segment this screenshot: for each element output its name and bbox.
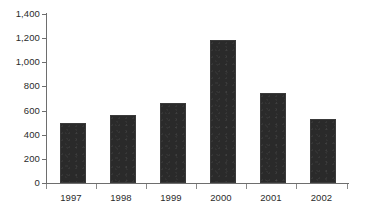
- x-tick-label-1997: 1997: [46, 192, 96, 203]
- x-tick-label-1999: 1999: [146, 192, 196, 203]
- bar-2000: [210, 40, 236, 183]
- y-tick-label: 1,200: [0, 33, 40, 43]
- x-tick-mark: [296, 184, 297, 189]
- bar-2001: [260, 93, 286, 183]
- y-axis-labels: 1,400 1,200 1,000 800 600 400 200 0: [0, 0, 40, 214]
- bar-1999: [160, 103, 186, 183]
- x-tick-label-2002: 2002: [296, 192, 347, 203]
- x-tick-mark: [347, 184, 348, 189]
- bar-1998: [110, 115, 136, 183]
- y-tick-label: 0: [0, 178, 40, 188]
- y-tick-label: 1,000: [0, 57, 40, 67]
- bar-1997: [60, 123, 86, 183]
- bar-2002: [310, 119, 336, 183]
- x-tick-label-2000: 2000: [196, 192, 246, 203]
- y-tick-label: 800: [0, 81, 40, 91]
- y-tick-label: 200: [0, 154, 40, 164]
- x-tick-label-2001: 2001: [246, 192, 296, 203]
- x-tick-mark: [246, 184, 247, 189]
- plot-area: [46, 14, 348, 183]
- x-tick-mark: [146, 184, 147, 189]
- y-tick-label: 1,400: [0, 9, 40, 19]
- x-axis-line: [46, 183, 349, 184]
- x-tick-mark: [46, 184, 47, 189]
- x-tick-mark: [196, 184, 197, 189]
- bar-chart: 1,400 1,200 1,000 800 600 400 200 0 1997…: [0, 0, 365, 214]
- y-tick-label: 600: [0, 106, 40, 116]
- x-tick-mark: [96, 184, 97, 189]
- x-tick-label-1998: 1998: [96, 192, 146, 203]
- y-tick-label: 400: [0, 130, 40, 140]
